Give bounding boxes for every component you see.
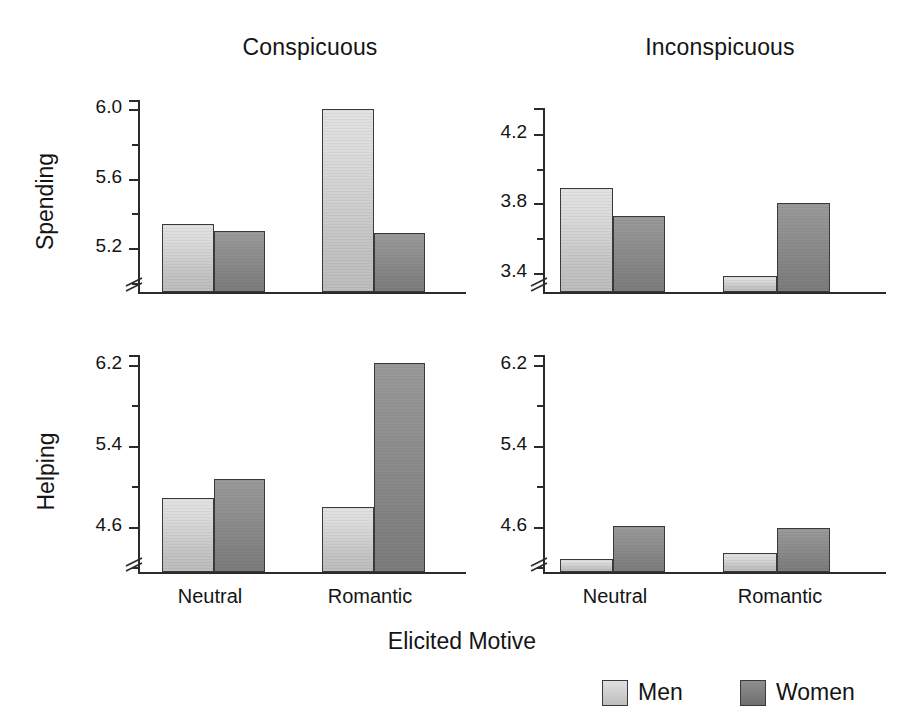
legend-item-women: Women [740, 679, 855, 706]
xtick-label-conspicuous-neutral: Neutral [150, 585, 270, 608]
column-title-inconspicuous: Inconspicuous [570, 34, 870, 61]
plot-area: 6.05.65.2 [100, 95, 470, 295]
panel-spending-inconspicuous: 4.23.83.4 [505, 95, 890, 295]
legend-swatch-men-icon [602, 680, 628, 706]
y-tick-label: 5.2 [52, 235, 122, 257]
y-tick-minor [537, 486, 545, 488]
column-title-conspicuous: Conspicuous [160, 34, 460, 61]
bar-women-neutral [613, 526, 666, 572]
x-axis-baseline [543, 572, 886, 574]
xtick-label-inconspicuous-neutral: Neutral [555, 585, 675, 608]
y-tick-label: 3.4 [457, 260, 527, 282]
panel-helping-conspicuous: 6.25.44.6 [100, 348, 470, 574]
axis-break-marker [124, 273, 154, 295]
x-axis-baseline [138, 572, 466, 574]
xtick-label-inconspicuous-romantic: Romantic [710, 585, 850, 608]
y-tick-major [534, 365, 545, 367]
y-tick-major [534, 203, 545, 205]
plot-area: 6.25.44.6 [100, 348, 470, 574]
y-tick-major [129, 365, 140, 367]
bar-men-neutral [560, 188, 613, 292]
y-tick-major [534, 134, 545, 136]
y-tick-label: 5.4 [457, 433, 527, 455]
bar-women-romantic [777, 528, 831, 572]
bar-women-neutral [613, 216, 666, 292]
bar-men-romantic [723, 276, 777, 292]
legend-label-men: Men [638, 679, 683, 706]
y-tick-label: 3.8 [457, 190, 527, 212]
y-axis-line [138, 355, 140, 572]
y-tick-major [534, 446, 545, 448]
y-axis-cap-tick [129, 355, 140, 357]
y-tick-label: 6.0 [52, 96, 122, 118]
y-tick-major [129, 109, 140, 111]
bar-women-romantic [374, 363, 426, 572]
y-tick-minor [132, 486, 140, 488]
y-axis-cap-tick [534, 355, 545, 357]
y-tick-major [129, 248, 140, 250]
y-tick-label: 5.6 [52, 166, 122, 188]
y-tick-label: 4.6 [457, 514, 527, 536]
panel-helping-inconspicuous: 6.25.44.6 [505, 348, 890, 574]
xtick-label-conspicuous-romantic: Romantic [300, 585, 440, 608]
bar-women-romantic [777, 203, 831, 292]
x-axis-baseline [138, 292, 466, 294]
y-tick-minor [537, 169, 545, 171]
y-tick-label: 6.2 [457, 352, 527, 374]
bar-men-romantic [322, 109, 374, 292]
axis-break-marker [529, 553, 559, 575]
x-axis-title: Elicited Motive [332, 628, 592, 655]
axis-break-marker [529, 273, 559, 295]
legend-label-women: Women [776, 679, 855, 706]
bar-men-neutral [162, 498, 214, 572]
bar-women-neutral [214, 479, 266, 572]
y-tick-label: 4.2 [457, 121, 527, 143]
bar-men-romantic [723, 553, 777, 572]
x-axis-baseline [543, 292, 886, 294]
y-tick-minor [132, 213, 140, 215]
y-tick-major [534, 527, 545, 529]
bar-men-neutral [560, 559, 613, 572]
y-tick-minor [537, 405, 545, 407]
plot-area: 6.25.44.6 [505, 348, 890, 574]
bar-women-neutral [214, 231, 266, 292]
y-tick-major [129, 527, 140, 529]
legend-item-men: Men [602, 679, 683, 706]
bar-women-romantic [374, 233, 426, 292]
legend-swatch-women-icon [740, 680, 766, 706]
y-tick-label: 4.6 [52, 514, 122, 536]
y-axis-line [138, 100, 140, 292]
panel-spending-conspicuous: 6.05.65.2 [100, 95, 470, 295]
y-axis-line [543, 355, 545, 572]
y-tick-major [129, 179, 140, 181]
figure-canvas: Conspicuous Inconspicuous Spending Helpi… [0, 0, 924, 723]
y-tick-label: 6.2 [52, 352, 122, 374]
bar-men-neutral [162, 224, 214, 292]
y-tick-minor [537, 238, 545, 240]
plot-area: 4.23.83.4 [505, 95, 890, 295]
y-tick-minor [132, 144, 140, 146]
y-tick-minor [132, 405, 140, 407]
y-tick-label: 5.4 [52, 433, 122, 455]
bar-men-romantic [322, 507, 374, 572]
y-axis-cap-tick [534, 108, 545, 110]
axis-break-marker [124, 553, 154, 575]
y-axis-cap-tick [129, 100, 140, 102]
y-tick-major [129, 446, 140, 448]
